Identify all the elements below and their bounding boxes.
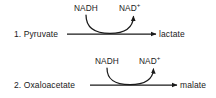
reaction-1-nadh-label: NADH: [74, 3, 98, 13]
reaction-2-nadh-label: NADH: [95, 56, 119, 66]
reaction-1-substrate-label: 1. Pyruvate: [14, 29, 58, 39]
reaction-1-nad-base: NAD: [119, 3, 137, 13]
reaction-1-cofactor-curve: [86, 15, 134, 33]
reaction-2-nad-plus-label: NAD+: [139, 56, 161, 66]
reaction-2-group: [90, 68, 177, 85]
reaction-2-substrate-label: 2. Oxaloacetate: [14, 80, 75, 90]
reaction-2-nad-base: NAD: [139, 56, 157, 66]
reaction-1-group: [67, 15, 156, 34]
reaction-2-nad-superscript: +: [157, 54, 161, 61]
reaction-2-cofactor-curve: [107, 68, 154, 85]
reaction-2-product-label: malate: [180, 80, 206, 90]
reaction-1-nad-plus-label: NAD+: [119, 3, 141, 13]
reaction-diagram: NADH NAD+ 1. Pyruvate lactate NADH NAD+ …: [0, 0, 216, 98]
reaction-1-nad-superscript: +: [137, 1, 141, 8]
reaction-1-product-label: lactate: [159, 29, 185, 39]
